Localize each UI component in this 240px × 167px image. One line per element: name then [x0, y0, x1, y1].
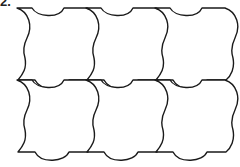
tile-row-2 — [17, 80, 238, 160]
tile — [86, 80, 169, 160]
tile — [17, 8, 100, 88]
tile — [17, 80, 100, 160]
tile — [155, 80, 238, 160]
tile — [155, 8, 238, 88]
tile — [86, 8, 169, 88]
tessellation-diagram — [0, 0, 240, 167]
tile-row-1 — [17, 8, 238, 88]
